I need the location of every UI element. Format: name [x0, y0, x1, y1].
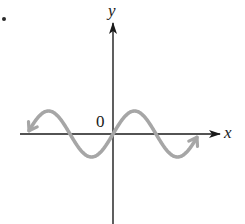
origin-label: 0	[96, 113, 105, 130]
x-axis-label: x	[224, 124, 232, 141]
sine-graph-figure: y x 0	[0, 0, 245, 224]
graph-canvas	[0, 0, 245, 224]
y-axis-label: y	[108, 2, 116, 19]
